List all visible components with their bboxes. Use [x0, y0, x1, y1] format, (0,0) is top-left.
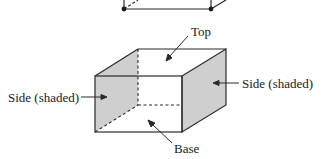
vertex-dot-right: [209, 7, 214, 12]
upper-hidden-diagonal: [124, 0, 138, 9]
label-base: Base: [174, 142, 199, 155]
upper-right-diagonal: [211, 0, 226, 9]
label-side-left: Side (shaded): [8, 91, 79, 104]
label-top: Top: [191, 25, 211, 38]
open-box: [95, 49, 226, 132]
vertex-dot-left: [122, 7, 127, 12]
right-side-face: [182, 49, 226, 132]
upper-figure-partial: [122, 0, 226, 11]
arrow-side-left: [81, 95, 107, 100]
label-side-right: Side (shaded): [242, 77, 313, 90]
left-side-face: [95, 49, 138, 132]
